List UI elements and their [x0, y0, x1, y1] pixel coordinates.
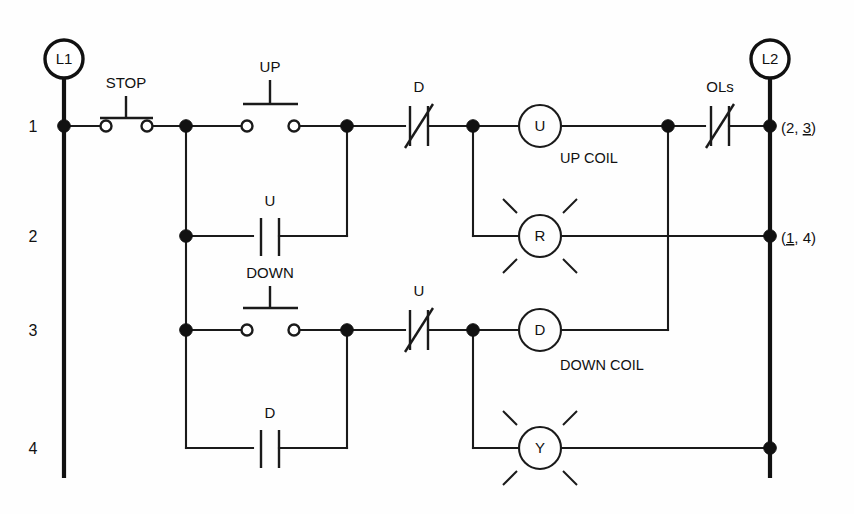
- rung-1-group: STOP UP D: [64, 58, 770, 148]
- down-pushbutton[interactable]: DOWN: [242, 264, 300, 336]
- junction-rail-rung2-right: [764, 230, 777, 243]
- u-seal-label: U: [265, 192, 276, 209]
- junction-branch-rung3: [180, 324, 193, 337]
- d-seal-contact[interactable]: D: [261, 404, 279, 468]
- ols-label: OLs: [706, 78, 734, 95]
- stop-pb-right-pole: [142, 121, 153, 132]
- left-rail-group: L1: [45, 40, 83, 478]
- cross-ref-rung1: (2, 3): [781, 119, 816, 136]
- down-pb-label: DOWN: [246, 264, 294, 281]
- up-pushbutton[interactable]: UP: [242, 58, 300, 132]
- ladder-diagram-svg: L1 L2 1 2 3 4 STOP: [0, 0, 854, 514]
- junction-seal-rung3: [341, 324, 354, 337]
- junction-branch-rung1: [180, 120, 193, 133]
- ols-contact[interactable]: OLs: [706, 78, 734, 148]
- junction-branch-rung2: [180, 230, 193, 243]
- down-coil-caption: DOWN COIL: [560, 357, 644, 373]
- junction-coil-rung3: [467, 324, 480, 337]
- r-lamp-ray-lower-right: [563, 259, 577, 273]
- rung-number-3: 3: [29, 322, 38, 339]
- u-nc-contact[interactable]: U: [405, 282, 433, 352]
- up-pb-label: UP: [260, 58, 281, 75]
- l1-label: L1: [56, 50, 73, 67]
- cross-reference-group: (2, 3) (1, 4): [781, 119, 816, 246]
- u-seal-contact[interactable]: U: [261, 192, 279, 256]
- rung-4-group: D Y: [186, 330, 770, 485]
- y-lamp-ray-upper-left: [503, 411, 517, 425]
- junction-rail-rung1: [58, 120, 71, 133]
- cross-ref-rung1-suffix: ): [811, 119, 816, 136]
- cross-ref-rung2: (1, 4): [781, 229, 816, 246]
- d-nc-contact[interactable]: D: [405, 78, 433, 148]
- d-nc-label: D: [414, 78, 425, 95]
- cross-ref-rung1-underlined: 3: [803, 119, 811, 136]
- junction-rail-rung4-right: [764, 442, 777, 455]
- junction-seal-rung1: [341, 120, 354, 133]
- down-coil-label: D: [535, 321, 546, 338]
- junction-coil-rung1: [467, 120, 480, 133]
- rung-2-group: U R: [186, 126, 770, 330]
- up-pb-right-pole: [289, 121, 300, 132]
- l2-label: L2: [762, 50, 779, 67]
- d-seal-label: D: [265, 404, 276, 421]
- y-lamp-ray-upper-right: [563, 411, 577, 425]
- y-lamp-label: Y: [535, 439, 545, 456]
- r-lamp-label: R: [535, 227, 546, 244]
- stop-pb-label: STOP: [106, 74, 147, 91]
- rung-number-2: 2: [29, 228, 38, 245]
- down-pb-left-pole: [242, 325, 253, 336]
- right-rail-group: L2: [751, 40, 789, 478]
- down-coil[interactable]: D: [519, 309, 561, 351]
- up-coil-caption: UP COIL: [560, 150, 618, 166]
- rung-numbers-group: 1 2 3 4: [29, 118, 38, 457]
- y-lamp-ray-lower-right: [563, 471, 577, 485]
- r-lamp-ray-upper-left: [503, 199, 517, 213]
- cross-ref-rung2-underlined: 1: [786, 229, 794, 246]
- junction-rail-rung1-right: [764, 120, 777, 133]
- cross-ref-rung2-suffix: , 4): [794, 229, 816, 246]
- stop-pb-left-pole: [101, 121, 112, 132]
- ladder-diagram-canvas: L1 L2 1 2 3 4 STOP: [0, 0, 854, 514]
- rung-number-1: 1: [29, 118, 38, 135]
- cross-ref-rung1-prefix: (2,: [781, 119, 803, 136]
- y-lamp-ray-lower-left: [503, 471, 517, 485]
- junction-ols-rung1: [662, 120, 675, 133]
- up-coil[interactable]: U: [519, 105, 561, 147]
- captions-group: UP COIL DOWN COIL: [560, 150, 644, 373]
- r-lamp-ray-lower-left: [503, 259, 517, 273]
- stop-pushbutton[interactable]: STOP: [100, 74, 153, 132]
- r-lamp-ray-upper-right: [563, 199, 577, 213]
- up-pb-left-pole: [242, 121, 253, 132]
- u-nc-label: U: [414, 282, 425, 299]
- rung-number-4: 4: [29, 440, 38, 457]
- down-pb-right-pole: [289, 325, 300, 336]
- up-coil-label: U: [535, 117, 546, 134]
